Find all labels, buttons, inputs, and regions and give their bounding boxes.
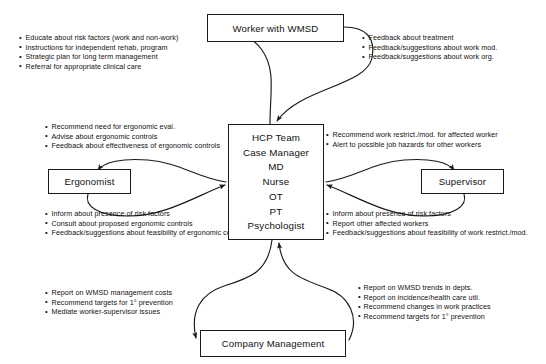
- note-item: Recommend need for ergonomic eval.: [45, 122, 220, 132]
- note-item: Feedback about effectiveness of ergonomi…: [45, 141, 220, 151]
- notes-ergonomist-to-hcp: Inform about presence of risk factors Co…: [45, 209, 249, 238]
- hcp-line-md: MD: [268, 162, 284, 172]
- note-item: Report on incidence/health care util.: [358, 293, 491, 303]
- notes-hcp-to-worker: Educate about risk factors (work and non…: [19, 33, 178, 71]
- node-ergonomist-label: Ergonomist: [64, 176, 114, 187]
- note-item: Instructions for independent rehab, prog…: [19, 43, 178, 53]
- arrow-hcp-to-worker: [214, 28, 271, 124]
- node-company-label: Company Management: [222, 338, 324, 349]
- arrow-hcp-to-company: [194, 240, 272, 338]
- notes-hcp-to-supervisor: Recommend work restrict./mod. for affect…: [326, 130, 498, 149]
- note-item: Advise about ergonomic controls: [45, 132, 220, 142]
- note-item: Recommend changes in work practices: [358, 302, 491, 312]
- arrow-company-to-hcp: [279, 243, 353, 340]
- node-hcp-team[interactable]: HCP Team Case Manager MD Nurse OT PT Psy…: [228, 124, 324, 240]
- note-item: Alert to possible job hazards for other …: [326, 140, 498, 150]
- note-item: Feedback/suggestions about work mod.: [362, 43, 497, 53]
- note-item: Report on WMSD management costs: [45, 288, 173, 298]
- node-company-management[interactable]: Company Management: [200, 330, 346, 357]
- node-supervisor-label: Supervisor: [439, 176, 486, 187]
- hcp-line-case-manager: Case Manager: [243, 148, 309, 158]
- node-worker-with-wmsd[interactable]: Worker with WMSD: [207, 14, 344, 42]
- note-item: Report other affected workers: [326, 219, 528, 229]
- node-worker-label: Worker with WMSD: [233, 23, 319, 34]
- note-item: Feedback/suggestions about feasibility o…: [45, 228, 249, 238]
- note-item: Educate about risk factors (work and non…: [19, 33, 178, 43]
- note-item: Recommend work restrict./mod. for affect…: [326, 130, 498, 140]
- node-supervisor[interactable]: Supervisor: [421, 169, 504, 194]
- note-item: Recommend targets for 1° prevention: [45, 298, 173, 308]
- notes-hcp-to-company: Report on WMSD management costs Recommen…: [45, 288, 173, 317]
- note-item: Strategic plan for long term management: [19, 52, 178, 62]
- hcp-line-ot: OT: [269, 192, 283, 202]
- note-item: Recommend targets for 1° prevention: [358, 312, 491, 322]
- diagram-canvas: Worker with WMSD Ergonomist Supervisor C…: [0, 0, 546, 364]
- note-item: Referral for appropriate clinical care: [19, 62, 178, 72]
- notes-worker-to-hcp: Feedback about treatment Feedback/sugges…: [362, 33, 497, 62]
- notes-company-to-hcp: Report on WMSD trends in depts. Report o…: [358, 283, 491, 321]
- note-item: Feedback/suggestions about work org.: [362, 52, 497, 62]
- note-item: Report on WMSD trends in depts.: [358, 283, 491, 293]
- note-item: Inform about presence of risk factors: [45, 209, 249, 219]
- hcp-line-pt: PT: [270, 207, 283, 217]
- note-item: Feedback about treatment: [362, 33, 497, 43]
- note-item: Consult about proposed ergonomic control…: [45, 219, 249, 229]
- notes-hcp-to-ergonomist: Recommend need for ergonomic eval. Advis…: [45, 122, 220, 151]
- note-item: Feedback/suggestions about feasibility o…: [326, 228, 528, 238]
- hcp-line-psychologist: Psychologist: [248, 221, 305, 231]
- note-item: Mediate worker-supervisor issues: [45, 307, 173, 317]
- hcp-line-title: HCP Team: [252, 133, 300, 143]
- notes-supervisor-to-hcp: Inform about presence of risk factors Re…: [326, 209, 528, 238]
- node-ergonomist[interactable]: Ergonomist: [48, 169, 131, 194]
- hcp-line-nurse: Nurse: [263, 177, 290, 187]
- note-item: Inform about presence of risk factors: [326, 209, 528, 219]
